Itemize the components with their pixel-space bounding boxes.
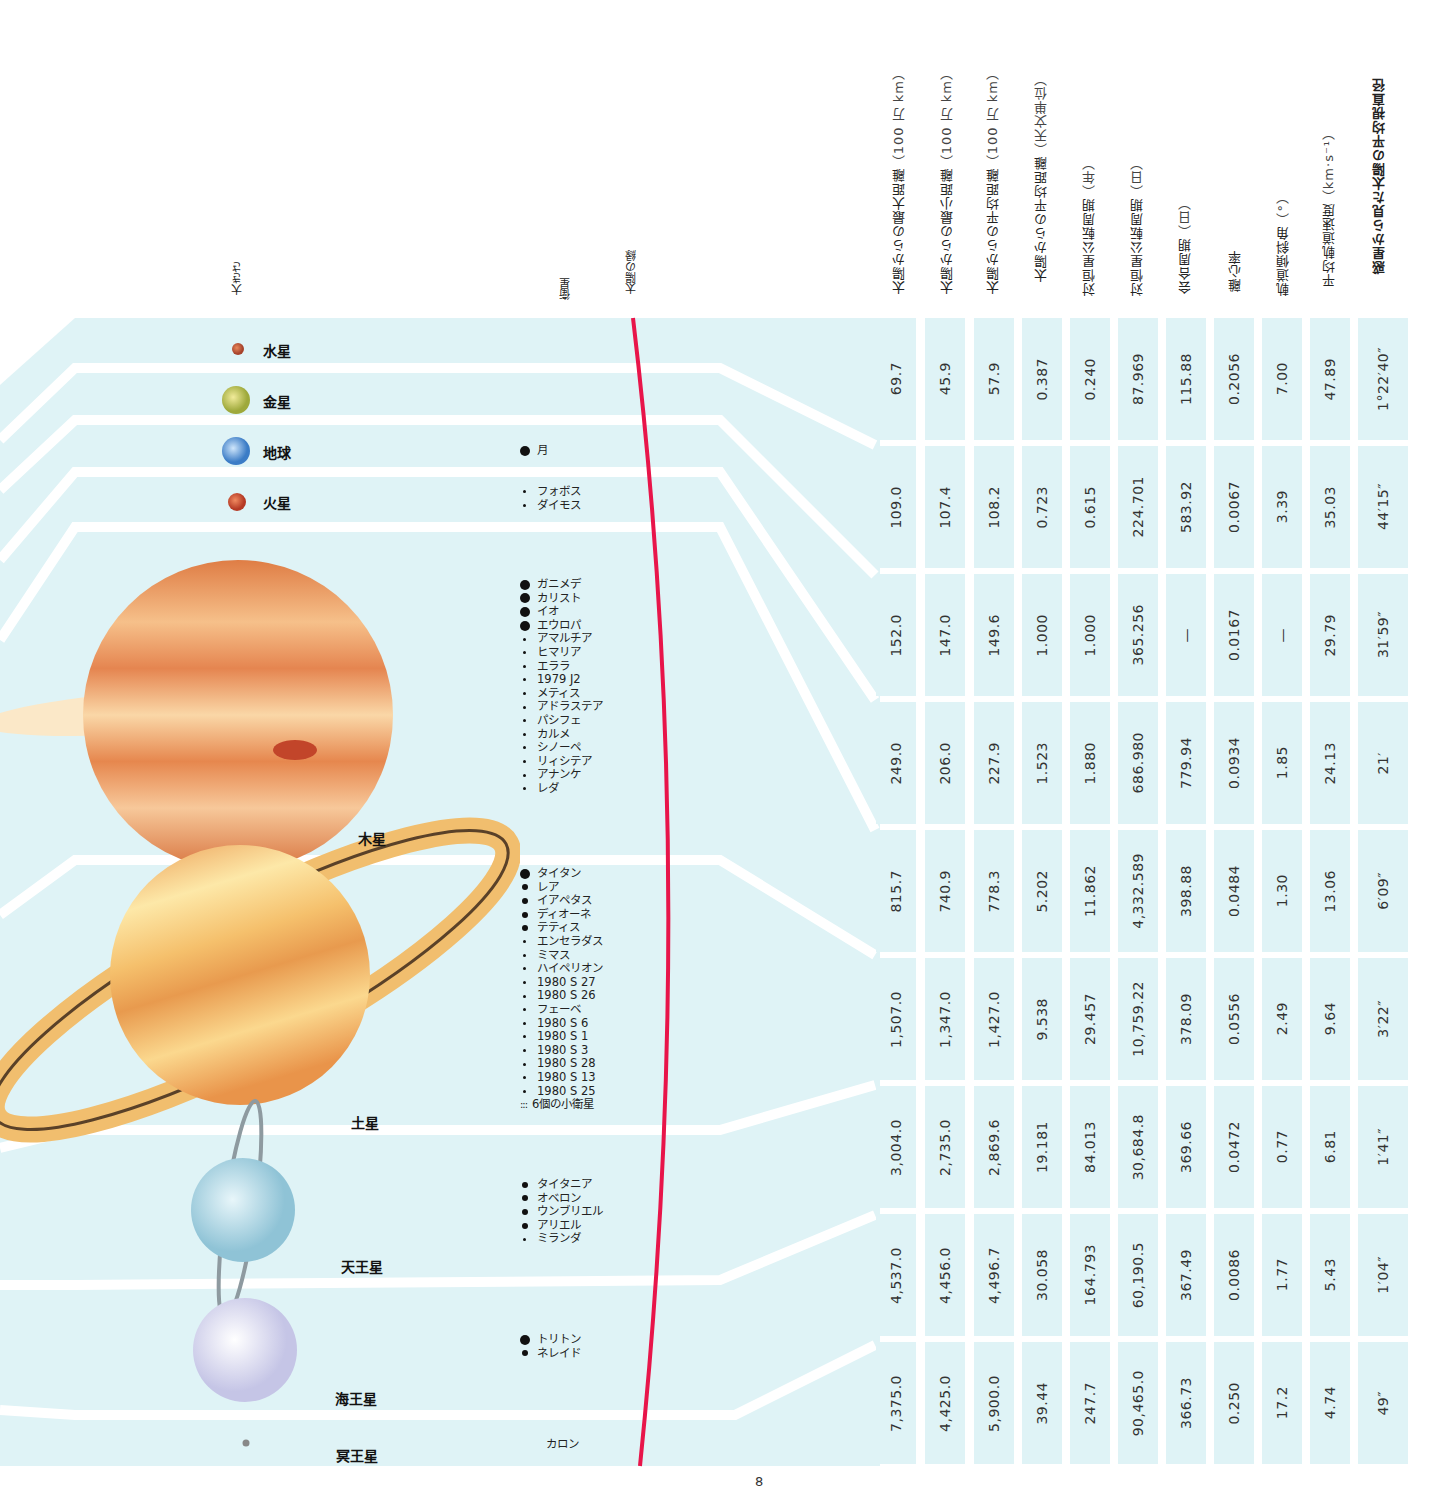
table-cell: 1.77 (1262, 1214, 1302, 1336)
planet-illustrations (0, 330, 520, 1470)
header-max-distance: 太陽からの最大距離（100 万 km） (892, 66, 906, 294)
jupiter-icon (83, 560, 393, 870)
table-cell: 0.0067 (1214, 446, 1254, 568)
table-cell: 2,735.0 (925, 1086, 965, 1208)
satellite-item: リィシテア (520, 755, 603, 769)
table-cell: — (1166, 574, 1206, 696)
table-cell: 0.387 (1022, 318, 1062, 440)
table-cell: 10,759.22 (1118, 958, 1158, 1080)
table-cell: 0.240 (1070, 318, 1110, 440)
table-cell: 4,332.589 (1118, 830, 1158, 952)
mars-icon (228, 493, 246, 511)
table-cell: 24.13 (1310, 702, 1350, 824)
table-cell: 3,004.0 (876, 1086, 916, 1208)
table-cell: 11.862 (1070, 830, 1110, 952)
satellite-item: ダイモス (520, 499, 581, 513)
table-cell: 369.66 (1166, 1086, 1206, 1208)
table-cell: 366.73 (1166, 1342, 1206, 1464)
table-cell: 1′41″ (1358, 1086, 1408, 1208)
table-cell: 90,465.0 (1118, 1342, 1158, 1464)
satellite-item: 1980 S 6 (520, 1017, 603, 1031)
table-cell: 0.0484 (1214, 830, 1254, 952)
planet-name-pluto: 冥王星 (336, 1445, 378, 1465)
table-cell: 6′09″ (1358, 830, 1408, 952)
table-cell: 9.64 (1310, 958, 1350, 1080)
satellite-item: カリスト (520, 592, 603, 606)
satellite-item: アナンケ (520, 768, 603, 782)
header-orbital-velocity: 平均軌道速度（km·s⁻¹） (1322, 126, 1336, 287)
satellites-column-header: 衛星 (558, 278, 574, 300)
satellite-item: ウンブリエル (520, 1205, 603, 1219)
table-cell: 1°22′40″ (1358, 318, 1408, 440)
table-cell: 0.2056 (1214, 318, 1254, 440)
table-cell: 1.85 (1262, 702, 1302, 824)
table-cell: 30,684.8 (1118, 1086, 1158, 1208)
table-cell: 247.7 (1070, 1342, 1110, 1464)
table-cell: 2.49 (1262, 958, 1302, 1080)
satellite-item: 1980 S 3 (520, 1044, 603, 1058)
satellite-item: 1980 S 1 (520, 1030, 603, 1044)
header-mean-distance-au: 太陽からの平均距離（天文単位） (1034, 72, 1048, 282)
satellites-earth: 月 (520, 444, 548, 458)
table-cell: 164.793 (1070, 1214, 1110, 1336)
table-cell: 1′04″ (1358, 1214, 1408, 1336)
table-cell: 5,900.0 (974, 1342, 1014, 1464)
table-cell: 583.92 (1166, 446, 1206, 568)
satellite-item: シノーペ (520, 741, 603, 755)
planet-name-jupiter: 木星 (358, 828, 386, 848)
satellite-item: イオ (520, 605, 603, 619)
satellite-item: イアペタス (520, 894, 603, 908)
mercury-icon (232, 343, 244, 355)
table-cell: 0.615 (1070, 446, 1110, 568)
satellite-item: パシフェ (520, 714, 603, 728)
header-mean-distance-km: 太陽からの平均距離（100 万 km） (986, 66, 1000, 294)
table-cell: 0.0472 (1214, 1086, 1254, 1208)
table-cell: 21′ (1358, 702, 1408, 824)
satellite-item: ミランダ (520, 1232, 603, 1246)
table-cell: 0.0086 (1214, 1214, 1254, 1336)
table-cell: 17.2 (1262, 1342, 1302, 1464)
venus-icon (222, 386, 250, 414)
table-cell: 0.0167 (1214, 574, 1254, 696)
table-cell: 0.0934 (1214, 702, 1254, 824)
header-min-distance: 太陽からの最小距離（100 万 km） (940, 66, 954, 294)
satellites-jupiter: ガニメデ カリスト イオ エウロパ アマルチア ヒマリア エララ 1979 J2… (520, 578, 603, 796)
table-cell: 4,456.0 (925, 1214, 965, 1336)
table-cell: 49″ (1358, 1342, 1408, 1464)
sun-edge-label: 太陽の縁 (624, 250, 640, 294)
table-cell: 29.457 (1070, 958, 1110, 1080)
table-cell: 6.81 (1310, 1086, 1350, 1208)
planet-name-saturn: 土星 (351, 1112, 379, 1132)
satellite-item: フォボス (520, 485, 581, 499)
size-column-header: 大きさ (230, 262, 246, 295)
satellite-item: ミマス (520, 949, 603, 963)
satellite-item: フェーベ (520, 1003, 603, 1017)
table-cell: 60,190.5 (1118, 1214, 1158, 1336)
table-cell: 4,537.0 (876, 1214, 916, 1336)
table-cell: 778.3 (974, 830, 1014, 952)
table-cell: 367.49 (1166, 1214, 1206, 1336)
table-cell: 1.30 (1262, 830, 1302, 952)
satellite-size-dot (523, 504, 526, 507)
table-cell: 7.00 (1262, 318, 1302, 440)
table-cell: 0.0556 (1214, 958, 1254, 1080)
table-cell: 5.202 (1022, 830, 1062, 952)
table-cell: 47.89 (1310, 318, 1350, 440)
table-cell: 115.88 (1166, 318, 1206, 440)
table-cell: 7,375.0 (876, 1342, 916, 1464)
satellites-neptune: トリトン ネレイド (520, 1333, 581, 1360)
table-cell: 779.94 (1166, 702, 1206, 824)
satellite-item: ガニメデ (520, 578, 603, 592)
table-cell: 398.88 (1166, 830, 1206, 952)
satellite-item: エンセラダス (520, 935, 603, 949)
planet-name-venus: 金星 (263, 391, 291, 411)
table-cell: 1.000 (1022, 574, 1062, 696)
table-cell: 31′59″ (1358, 574, 1408, 696)
table-cell: 3.39 (1262, 446, 1302, 568)
satellite-item: レダ (520, 782, 603, 796)
table-cell: 57.9 (974, 318, 1014, 440)
pluto-icon (243, 1440, 250, 1447)
table-cell: 152.0 (876, 574, 916, 696)
table-cell: 87.969 (1118, 318, 1158, 440)
satellites-mars: フォボス ダイモス (520, 485, 581, 512)
